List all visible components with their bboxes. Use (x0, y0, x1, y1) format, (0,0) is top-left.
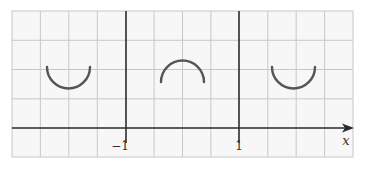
x-axis-label: x (342, 133, 350, 148)
tick-label-neg-one: −1 (111, 139, 129, 153)
tick-label-one: 1 (235, 139, 243, 153)
graph-figure: −1 1 x (0, 0, 366, 171)
